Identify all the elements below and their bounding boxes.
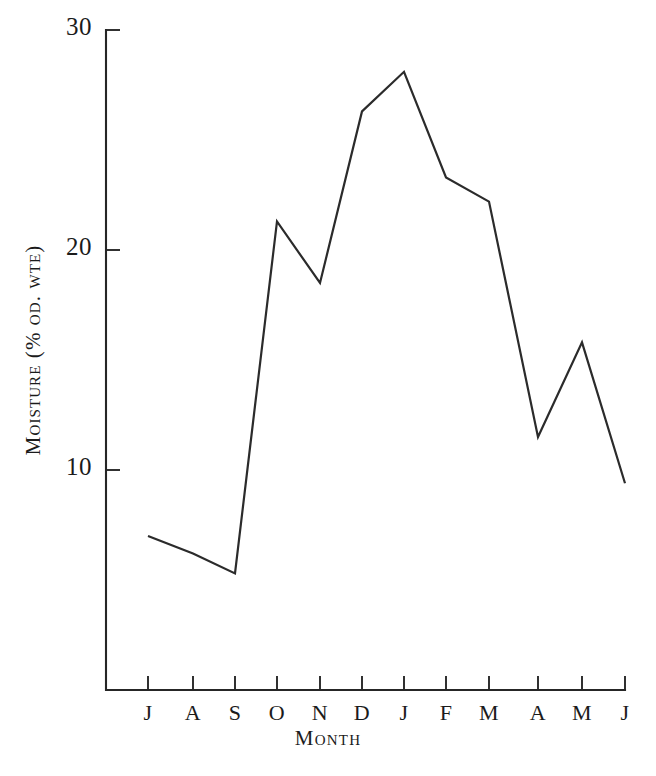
- series-group: [148, 72, 625, 574]
- x-tick-label: J: [608, 700, 642, 726]
- y-axis-label: Moisture (% od. wte): [21, 185, 46, 515]
- x-axis-label: Month: [0, 726, 656, 751]
- chart-canvas: [0, 0, 656, 776]
- x-tick-label: F: [429, 700, 463, 726]
- x-tick-label: S: [218, 700, 252, 726]
- x-tick-label: J: [131, 700, 165, 726]
- x-tick-label: O: [260, 700, 294, 726]
- x-tick-label: J: [387, 700, 421, 726]
- chart-figure: 102030 JASONDJFMAMJ Moisture (% od. wte)…: [0, 0, 656, 776]
- axis-lines: [106, 30, 625, 690]
- x-tick-label: N: [303, 700, 337, 726]
- y-axis-label-wrapper: Moisture (% od. wte): [21, 185, 55, 515]
- y-axis-ticks: [106, 30, 120, 470]
- axes-group: [106, 30, 625, 690]
- x-axis-ticks: [148, 676, 625, 690]
- x-tick-label: D: [345, 700, 379, 726]
- x-tick-label: A: [176, 700, 210, 726]
- x-tick-label: M: [565, 700, 599, 726]
- x-tick-label: A: [521, 700, 555, 726]
- x-tick-label: M: [472, 700, 506, 726]
- y-tick-label: 30: [32, 13, 92, 41]
- moisture-line-series: [148, 72, 625, 574]
